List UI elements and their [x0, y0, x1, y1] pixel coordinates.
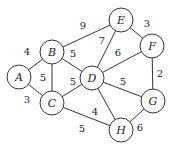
- edge-weight-d-e: 7: [99, 35, 105, 46]
- node-a: A: [7, 65, 31, 89]
- edge-weight-f-g: 2: [157, 68, 163, 79]
- edge-weight-a-c: 3: [24, 94, 30, 105]
- node-label: B: [47, 46, 56, 59]
- edge-weight-c-d: 5: [70, 76, 76, 87]
- edge-weight-d-f: 6: [115, 47, 121, 58]
- edge-weight-b-d: 5: [70, 48, 76, 59]
- node-label: F: [147, 40, 156, 53]
- node-c: C: [40, 91, 64, 115]
- edge-weight-d-g: 5: [120, 76, 126, 87]
- edge-weight-c-h: 5: [79, 123, 85, 134]
- node-label: C: [48, 97, 57, 110]
- node-label: G: [149, 95, 158, 108]
- node-f: F: [140, 34, 164, 58]
- node-d: D: [80, 66, 104, 90]
- edge-weight-b-c: 5: [40, 72, 46, 83]
- node-e: E: [109, 8, 133, 32]
- node-label: D: [87, 72, 97, 85]
- node-h: H: [109, 118, 133, 142]
- node-b: B: [40, 40, 64, 64]
- edge-weight-a-b: 4: [24, 46, 30, 57]
- edge-weight-e-f: 3: [144, 18, 150, 29]
- node-label: E: [116, 14, 125, 27]
- node-label: A: [14, 71, 23, 84]
- edge-weight-d-h: 4: [92, 106, 98, 117]
- node-label: H: [115, 124, 126, 137]
- weighted-graph-diagram: 43559557654326 ABCDEFGH: [0, 0, 172, 151]
- edge-weight-g-h: 6: [137, 122, 143, 133]
- node-g: G: [141, 89, 165, 113]
- edge-weight-b-e: 9: [80, 20, 86, 31]
